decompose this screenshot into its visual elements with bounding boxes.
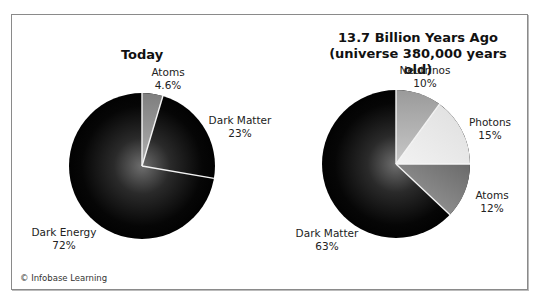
chart-title: 13.7 Billion Years Ago xyxy=(318,30,518,46)
label-value: 72% xyxy=(22,239,106,252)
label-value: 4.6% xyxy=(143,79,193,92)
label-value: 15% xyxy=(460,129,520,142)
label-name: Neutrinos xyxy=(390,64,460,77)
label-photons: Photons 15% xyxy=(460,116,520,142)
label-dark-matter-past: Dark Matter 63% xyxy=(285,227,369,253)
pie-13-7-billion-years-ago xyxy=(322,90,470,238)
label-name: Photons xyxy=(460,116,520,129)
label-atoms-today: Atoms 4.6% xyxy=(143,66,193,92)
copyright-credit: © Infobase Learning xyxy=(20,273,107,283)
label-value: 10% xyxy=(390,77,460,90)
label-atoms-past: Atoms 12% xyxy=(467,189,517,215)
label-name: Atoms xyxy=(143,66,193,79)
chart-title-today: Today xyxy=(92,47,192,63)
label-name: Dark Matter xyxy=(198,114,282,127)
label-name: Atoms xyxy=(467,189,517,202)
label-dark-energy-today: Dark Energy 72% xyxy=(22,226,106,252)
label-neutrinos: Neutrinos 10% xyxy=(390,64,460,90)
label-value: 63% xyxy=(285,240,369,253)
label-dark-matter-today: Dark Matter 23% xyxy=(198,114,282,140)
pie-today xyxy=(69,93,215,239)
label-name: Dark Matter xyxy=(285,227,369,240)
label-name: Dark Energy xyxy=(22,226,106,239)
label-value: 23% xyxy=(198,127,282,140)
label-value: 12% xyxy=(467,202,517,215)
